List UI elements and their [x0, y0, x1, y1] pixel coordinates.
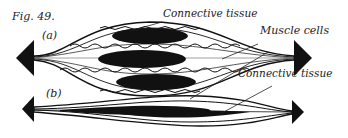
panel-b-label: (b): [46, 88, 62, 99]
connective-tissue-top-label: Connective tissue: [163, 8, 257, 19]
panel-b-drawing: [22, 96, 304, 126]
wavy-fibre-2: [60, 68, 250, 72]
leader-connective-bottom: [220, 86, 272, 114]
muscle-cell-2: [98, 50, 186, 68]
panel-a-label: (a): [42, 30, 57, 41]
muscle-cell-1: [112, 28, 188, 44]
muscle-cells-label: Muscle cells: [260, 25, 329, 36]
figure-title: Fig. 49.: [12, 11, 55, 22]
muscle-figure: Fig. 49. (a) (b) Connective tissue Muscl…: [0, 0, 348, 138]
left-arrowhead-b: [22, 96, 34, 122]
connective-tissue-bottom-label: Connective tissue: [238, 68, 332, 79]
right-arrowhead-b: [292, 100, 304, 124]
left-arrowhead-a: [16, 40, 34, 76]
wavy-fibre-1: [70, 44, 240, 48]
muscle-cell-3: [116, 74, 196, 90]
